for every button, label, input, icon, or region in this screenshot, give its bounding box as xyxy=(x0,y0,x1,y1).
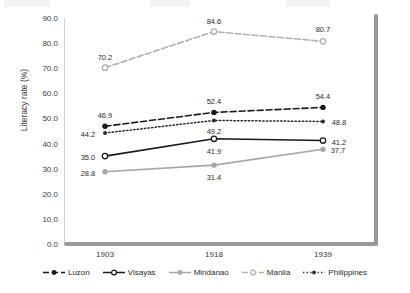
series-line-manila xyxy=(105,32,323,68)
data-point-marker xyxy=(102,65,107,70)
plot-area: 46.952.454.435.041.941.228.831.437.770.2… xyxy=(64,18,377,244)
data-point-marker xyxy=(320,138,325,143)
data-point-label: 28.8 xyxy=(81,168,96,177)
data-point-marker xyxy=(211,110,216,115)
data-point-label: 46.9 xyxy=(98,111,113,120)
legend-swatch-luzon xyxy=(43,268,65,277)
data-point-marker xyxy=(320,39,325,44)
data-point-label: 80.7 xyxy=(316,25,331,34)
x-tick-label: 1939 xyxy=(314,250,332,259)
y-axis-tick-labels: 90.080.070.060.050.040.030.020.010.00.0 xyxy=(26,0,58,293)
legend-label: Philippines xyxy=(328,268,367,277)
data-point-marker xyxy=(102,153,107,158)
data-point-label: 37.7 xyxy=(331,146,346,155)
data-point-marker xyxy=(102,169,107,174)
legend-item-luzon[interactable]: Luzon xyxy=(43,268,90,277)
scan-artifact-right xyxy=(286,0,330,7)
data-point-marker xyxy=(320,105,325,110)
data-point-label: 44.2 xyxy=(81,130,96,139)
data-point-label: 31.4 xyxy=(207,173,222,182)
chart-legend: LuzonVisayasMindanaoManilaPhilippines xyxy=(0,268,410,277)
y-tick-label: 60.0 xyxy=(26,89,58,98)
y-tick-label: 70.0 xyxy=(26,64,58,73)
literacy-rate-line-chart: Literacy rate (%) 90.080.070.060.050.040… xyxy=(0,0,410,293)
data-point-label: 49.2 xyxy=(207,127,222,136)
legend-label: Mindanao xyxy=(194,268,229,277)
legend-item-visayas[interactable]: Visayas xyxy=(103,268,156,277)
data-point-marker xyxy=(211,29,216,34)
data-point-label: 52.4 xyxy=(207,97,222,106)
y-tick-label: 20.0 xyxy=(26,189,58,198)
data-point-marker xyxy=(103,131,107,135)
legend-swatch-mindanao xyxy=(169,268,191,277)
data-point-label: 41.2 xyxy=(332,137,347,146)
y-tick-label: 40.0 xyxy=(26,139,58,148)
data-point-label: 48.8 xyxy=(332,118,347,127)
data-point-label: 70.2 xyxy=(98,52,113,61)
y-tick-label: 90.0 xyxy=(26,14,58,23)
y-tick-label: 50.0 xyxy=(26,114,58,123)
x-tick-label: 1918 xyxy=(205,250,223,259)
legend-swatch-visayas xyxy=(103,268,125,277)
data-point-label: 41.9 xyxy=(207,146,222,155)
scan-artifact-mid xyxy=(150,0,190,7)
data-point-marker xyxy=(321,119,325,123)
legend-item-philippines[interactable]: Philippines xyxy=(303,268,367,277)
y-tick-label: 10.0 xyxy=(26,214,58,223)
data-point-marker xyxy=(320,147,325,152)
y-tick-label: 30.0 xyxy=(26,164,58,173)
legend-swatch-philippines xyxy=(303,268,325,277)
data-point-label: 35.0 xyxy=(81,153,96,162)
y-tick-label: 80.0 xyxy=(26,39,58,48)
data-point-marker xyxy=(102,124,107,129)
data-point-marker xyxy=(212,118,216,122)
legend-label: Manila xyxy=(267,268,291,277)
legend-label: Visayas xyxy=(128,268,156,277)
data-point-marker xyxy=(211,162,216,167)
legend-item-mindanao[interactable]: Mindanao xyxy=(169,268,229,277)
data-point-marker xyxy=(211,136,216,141)
data-point-label: 54.4 xyxy=(316,92,331,101)
legend-label: Luzon xyxy=(68,268,90,277)
data-point-label: 84.6 xyxy=(207,16,222,25)
legend-swatch-manila xyxy=(242,268,264,277)
y-tick-label: 0.0 xyxy=(26,240,58,249)
x-tick-label: 1903 xyxy=(96,250,114,259)
legend-item-manila[interactable]: Manila xyxy=(242,268,291,277)
